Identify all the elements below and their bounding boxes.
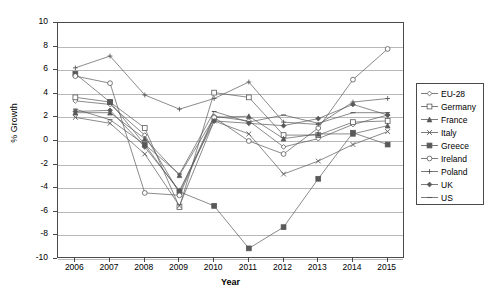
legend-marker-plus-icon (420, 166, 439, 177)
y-tick-label: -2 (22, 159, 48, 167)
legend-item-france[interactable]: France (420, 113, 483, 126)
legend-label: Germany (439, 102, 476, 112)
legend-marker-square-icon (420, 101, 439, 112)
y-tick-label: 10 (22, 17, 48, 25)
y-tick-label: -6 (22, 206, 48, 214)
legend-item-germany[interactable]: Germany (420, 100, 483, 113)
legend-marker-filled-square-icon (420, 140, 439, 151)
legend-label: Ireland (439, 154, 467, 164)
y-tick-label: 8 (22, 41, 48, 49)
legend-item-eu-28[interactable]: EU-28 (420, 87, 483, 100)
legend-item-italy[interactable]: Italy (420, 126, 483, 139)
legend-label: Greece (439, 141, 469, 151)
legend-marker-cross-x-icon (420, 127, 439, 138)
y-tick-label: 4 (22, 88, 48, 96)
legend-label: Poland (439, 167, 467, 177)
y-tick-mark (53, 258, 57, 259)
y-tick-label: 2 (22, 111, 48, 119)
y-tick-label: -4 (22, 182, 48, 190)
series-greece (73, 71, 390, 250)
legend-label: US (439, 193, 453, 203)
legend-item-greece[interactable]: Greece (420, 139, 483, 152)
x-axis-title: Year (57, 277, 404, 287)
legend-marker-diamond-icon (420, 88, 439, 99)
x-tick-label: 2015 (367, 262, 407, 272)
legend-marker-filled-diamond-icon (420, 179, 439, 190)
legend-marker-dash-icon (420, 192, 439, 203)
legend-item-ireland[interactable]: Ireland (420, 152, 483, 165)
legend-label: Italy (439, 128, 457, 138)
legend-marker-triangle-icon (420, 114, 439, 125)
y-tick-label: 0 (22, 135, 48, 143)
legend: EU-28GermanyFranceItalyGreeceIrelandPola… (416, 83, 484, 205)
plot-area (57, 22, 404, 258)
legend-label: UK (439, 180, 453, 190)
y-tick-label: -8 (22, 229, 48, 237)
chart-figure: % Growth 1086420-2-4-6-8-10 200620072008… (0, 0, 489, 304)
legend-label: EU-28 (439, 89, 465, 99)
legend-item-poland[interactable]: Poland (420, 165, 483, 178)
y-tick-label: -10 (22, 253, 48, 261)
series-layer (58, 23, 405, 259)
y-axis-title: % Growth (9, 83, 19, 163)
legend-item-uk[interactable]: UK (420, 178, 483, 191)
series-france (73, 110, 390, 177)
y-tick-label: 6 (22, 64, 48, 72)
legend-item-us[interactable]: US (420, 191, 483, 204)
legend-marker-circle-icon (420, 153, 439, 164)
legend-label: France (439, 115, 467, 125)
